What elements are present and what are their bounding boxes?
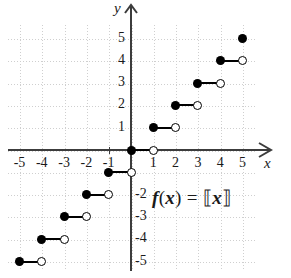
- open-endpoint-circle: [216, 79, 225, 88]
- equation-var-2: x: [212, 187, 222, 208]
- function-equation: f(x) = ⟦x⟧: [152, 186, 231, 209]
- open-endpoint-circle: [37, 257, 46, 266]
- closed-endpoint-dot: [127, 146, 136, 155]
- x-tick-label: -2: [75, 155, 97, 171]
- y-tick-label: -3: [135, 208, 157, 224]
- x-tick-label: 5: [232, 155, 254, 171]
- x-tick-label: -5: [9, 155, 31, 171]
- y-tick-label: -5: [135, 253, 157, 269]
- x-tick-mark: [109, 147, 111, 154]
- open-endpoint-circle: [193, 101, 202, 110]
- equation-equals: =: [187, 187, 198, 208]
- gridline-horizontal: [8, 39, 256, 40]
- equation-paren-close: ): [175, 187, 182, 208]
- y-tick-label: 4: [105, 52, 125, 68]
- y-axis-arrow: [123, 3, 141, 25]
- closed-endpoint-dot: [238, 34, 247, 43]
- x-tick-label: 2: [165, 155, 187, 171]
- y-tick-label: 5: [105, 30, 125, 46]
- closed-endpoint-dot: [193, 79, 202, 88]
- x-tick-label: -4: [31, 155, 53, 171]
- gridline-horizontal: [8, 217, 256, 218]
- x-tick-label: -3: [53, 155, 75, 171]
- closed-endpoint-dot: [171, 101, 180, 110]
- closed-endpoint-dot: [104, 168, 113, 177]
- y-tick-label: 2: [105, 96, 125, 112]
- open-endpoint-circle: [238, 56, 247, 65]
- equation-var-1: x: [165, 187, 175, 208]
- x-tick-label: 4: [209, 155, 231, 171]
- closed-endpoint-dot: [60, 212, 69, 221]
- open-endpoint-circle: [82, 212, 91, 221]
- open-endpoint-circle: [149, 146, 158, 155]
- gridline-horizontal: [8, 106, 256, 107]
- y-tick-label: -4: [135, 230, 157, 246]
- closed-endpoint-dot: [15, 257, 24, 266]
- closed-endpoint-dot: [37, 235, 46, 244]
- x-tick-label: 1: [142, 155, 164, 171]
- open-endpoint-circle: [60, 235, 69, 244]
- x-axis-label: x: [264, 155, 271, 172]
- equation-bracket-open: ⟦: [203, 187, 212, 208]
- y-tick-label: 1: [105, 119, 125, 135]
- gridline-horizontal: [8, 128, 256, 129]
- graph-figure: x y -5-4-3-2-11234554321-2-3-4-5 f(x) = …: [0, 0, 291, 278]
- y-axis-line: [130, 14, 132, 271]
- y-tick-label: 3: [105, 74, 125, 90]
- open-endpoint-circle: [104, 190, 113, 199]
- equation-bracket-close: ⟧: [222, 187, 231, 208]
- closed-endpoint-dot: [216, 56, 225, 65]
- closed-endpoint-dot: [82, 190, 91, 199]
- open-endpoint-circle: [171, 123, 180, 132]
- closed-endpoint-dot: [149, 123, 158, 132]
- y-axis-label: y: [114, 0, 121, 17]
- open-endpoint-circle: [127, 168, 136, 177]
- equation-f: f: [152, 187, 159, 208]
- x-tick-label: 3: [187, 155, 209, 171]
